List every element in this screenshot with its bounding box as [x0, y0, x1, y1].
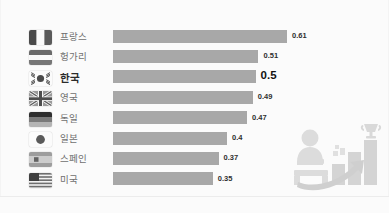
chart-row: 헝가리0.51 [0, 47, 389, 67]
person-head [302, 130, 319, 147]
japan-flag [29, 132, 52, 147]
bar [113, 111, 247, 124]
country-label: 프랑스 [60, 29, 110, 45]
country-label: 독일 [60, 111, 110, 127]
bar [113, 70, 256, 83]
chart-row: 한국0.5 [0, 68, 389, 88]
chart-card: 프랑스0.61 헝가리0.51 한국0.5 [0, 0, 389, 213]
spain-flag [29, 152, 52, 167]
bar-value-label: 0.47 [252, 112, 267, 124]
france-flag [29, 30, 52, 45]
coin-2 [340, 148, 345, 155]
bar [113, 91, 253, 104]
germany-flag [29, 112, 52, 127]
hungary-flag [29, 50, 52, 65]
bar-large [364, 140, 377, 185]
united-kingdom-flag [29, 91, 52, 106]
country-label: 헝가리 [60, 49, 110, 65]
bar-value-label: 0.51 [263, 50, 278, 62]
country-label: 영국 [60, 90, 110, 106]
card-bottom-edge [0, 196, 389, 197]
coin-3 [335, 145, 339, 149]
bar [113, 30, 287, 43]
bar [113, 50, 258, 63]
country-label: 한국 [60, 70, 110, 86]
trophy [361, 124, 381, 139]
bar-value-label: 0.61 [292, 30, 307, 42]
country-label: 스페인 [60, 151, 110, 167]
bar [113, 152, 219, 165]
bar-value-label: 0.37 [224, 152, 239, 164]
person-growth-chart-trophy-illustration [292, 118, 382, 194]
bar [113, 132, 227, 145]
desk-surface [294, 170, 328, 176]
south-korea-flag [29, 71, 52, 86]
country-label: 일본 [60, 131, 110, 147]
united-states-flag [29, 173, 52, 188]
laptop [304, 159, 324, 164]
bar-value-label: 0.5 [261, 69, 277, 82]
bar-value-label: 0.49 [258, 91, 273, 103]
country-label: 미국 [60, 172, 110, 188]
bar-value-label: 0.4 [232, 132, 242, 144]
chart-row: 영국0.49 [0, 88, 389, 108]
bar-value-label: 0.35 [218, 173, 233, 185]
bar [113, 172, 213, 185]
coin-1 [333, 151, 338, 156]
chart-row: 프랑스0.61 [0, 27, 389, 47]
